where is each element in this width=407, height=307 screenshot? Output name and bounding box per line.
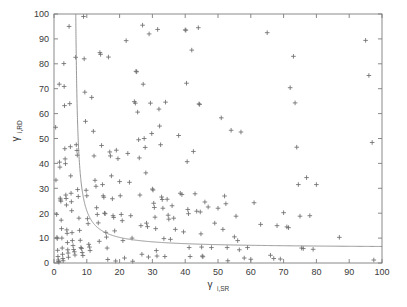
y-tick-label: 70 (39, 84, 49, 94)
y-tick-label: 100 (34, 9, 49, 19)
x-tick-label: 20 (115, 267, 125, 277)
x-tick-label: 70 (279, 267, 289, 277)
scatter-plot-figure: 0102030405060708090100010203040506070809… (0, 0, 407, 307)
y-tick-label: 50 (39, 134, 49, 144)
x-tick-label: 60 (246, 267, 256, 277)
x-tick-label: 100 (374, 267, 389, 277)
x-tick-label: 10 (82, 267, 92, 277)
y-tick-label: 0 (44, 258, 49, 268)
y-tick-label: 30 (39, 184, 49, 194)
y-axis-title-subscript: i,RD (16, 120, 23, 133)
y-tick-label: 90 (39, 34, 49, 44)
plot-canvas: 0102030405060708090100010203040506070809… (0, 0, 407, 307)
y-tick-label: 20 (39, 209, 49, 219)
x-tick-label: 80 (311, 267, 321, 277)
x-tick-label: 40 (180, 267, 190, 277)
x-tick-label: 90 (344, 267, 354, 277)
x-tick-label: 30 (147, 267, 157, 277)
y-axis-title: γ (10, 137, 21, 142)
x-tick-label: 50 (213, 267, 223, 277)
x-axis-title-subscript: i,SR (217, 285, 230, 292)
y-tick-label: 40 (39, 159, 49, 169)
y-tick-label: 80 (39, 59, 49, 69)
x-axis-title: γ (208, 279, 213, 290)
x-tick-label: 0 (51, 267, 56, 277)
y-tick-label: 60 (39, 109, 49, 119)
y-tick-label: 10 (39, 233, 49, 243)
